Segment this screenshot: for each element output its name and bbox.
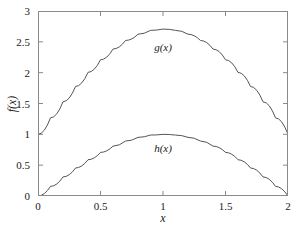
y-tick-label: 0.5 [0,160,30,171]
chart-figure: f(x) x 00.511.522.53 00.511.52 g(x)h(x) [0,0,297,232]
y-tick-label: 0 [0,191,30,202]
x-tick-label: 1.5 [219,201,233,212]
curve-label-gx: g(x) [154,41,172,52]
y-tick-label: 1 [0,129,30,140]
x-tick-label: 0.5 [94,201,108,212]
x-tick-label: 1 [160,201,166,212]
y-tick-label: 3 [0,6,30,17]
plot-area: g(x)h(x) [38,11,288,196]
x-tick-label: 0 [35,201,41,212]
plot-frame-border [38,11,288,196]
x-axis-title: x [160,212,165,224]
y-tick-label: 1.5 [0,98,30,109]
y-tick-label: 2.5 [0,36,30,47]
x-tick-label: 2 [285,201,291,212]
curve-label-hx: h(x) [154,142,172,153]
y-tick-label: 2 [0,67,30,78]
